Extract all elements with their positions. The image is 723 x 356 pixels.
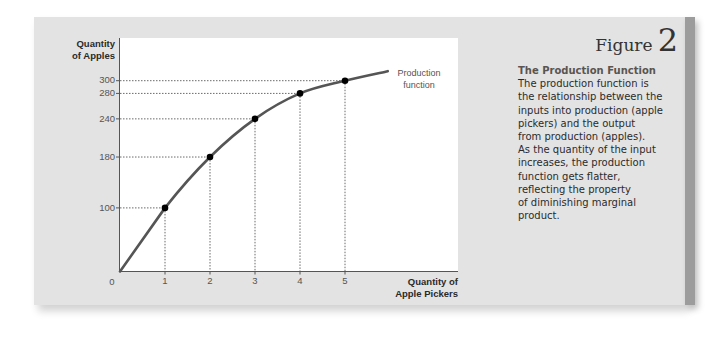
x-tick-4: 4	[293, 276, 307, 286]
y-tick-280: 280	[70, 88, 115, 98]
curve-annotation-line1: Production	[384, 67, 454, 79]
production-curve	[120, 71, 388, 271]
dotted-guides	[120, 81, 345, 272]
x-tick-1: 1	[158, 276, 172, 286]
figure-title: Figure 2	[560, 24, 678, 56]
origin-label: 0	[105, 277, 119, 287]
x-axis-label: Quantity of Apple Pickers	[380, 276, 458, 300]
y-tick-240: 240	[70, 114, 115, 124]
figure-word: Figure	[595, 35, 652, 55]
data-point	[252, 116, 259, 123]
y-tick-100: 100	[70, 203, 115, 213]
y-axis-label-line1: Quantity	[60, 38, 115, 50]
x-axis-label-line2: Apple Pickers	[380, 288, 458, 300]
figure-caption: The Production Function The production f…	[518, 64, 683, 222]
figure-number: 2	[658, 21, 678, 59]
data-point	[297, 90, 304, 97]
data-point	[207, 154, 214, 161]
curve-annotation-line2: function	[384, 79, 454, 91]
curve-annotation: Production function	[384, 67, 454, 91]
y-axis-label-line2: of Apples	[60, 50, 115, 62]
data-point	[162, 205, 169, 212]
caption-title: The Production Function	[518, 64, 683, 77]
x-tick-3: 3	[248, 276, 262, 286]
x-tick-5: 5	[338, 276, 352, 286]
y-axis-label: Quantity of Apples	[60, 38, 115, 62]
data-point	[342, 77, 349, 84]
x-tick-2: 2	[203, 276, 217, 286]
x-axis-label-line1: Quantity of	[380, 276, 458, 288]
y-tick-180: 180	[70, 152, 115, 162]
y-tick-300: 300	[70, 75, 115, 85]
caption-body: The production function is the relations…	[518, 77, 683, 222]
